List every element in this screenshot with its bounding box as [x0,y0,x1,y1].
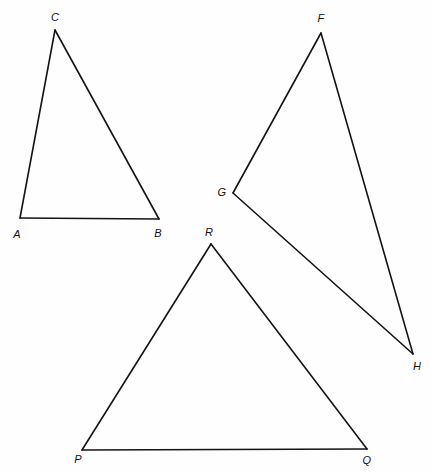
vertex-label-r: R [205,227,213,238]
triangle-abc [20,30,159,219]
edge-r-p [82,244,211,450]
edge-p-q [82,449,367,450]
edge-a-b [20,218,159,219]
edge-g-h [233,193,413,354]
edge-b-c [55,30,159,219]
vertex-label-q: Q [363,455,372,466]
edge-f-g [233,33,321,193]
edge-h-f [321,33,413,354]
vertex-label-f: F [318,13,325,24]
vertex-label-b: B [154,228,162,239]
geometry-figure: A B C F G H P Q R [0,0,430,474]
geometry-canvas [0,0,430,474]
vertex-label-c: C [51,12,59,23]
triangle-fgh [233,33,413,354]
edge-q-r [211,244,367,449]
edge-c-a [20,30,55,218]
vertex-label-g: G [218,187,227,198]
vertex-label-p: P [74,454,82,465]
vertex-label-a: A [13,229,21,240]
vertex-label-h: H [413,361,421,372]
